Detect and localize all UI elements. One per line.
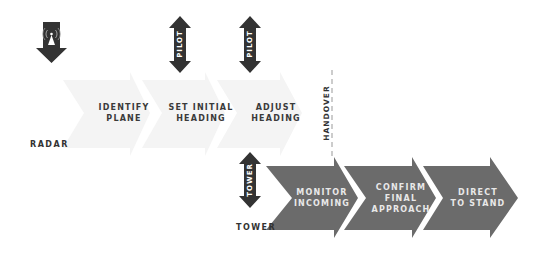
step-line: MONITOR <box>294 187 350 198</box>
step-line: HEADING <box>251 113 301 124</box>
tower-step-label: MONITOR INCOMING <box>294 187 350 209</box>
step-line: INCOMING <box>294 198 350 209</box>
pilot-label-2: PILOT <box>246 30 254 58</box>
tower-step-label: CONFIRM FINAL APPROACH <box>371 182 430 215</box>
step-line: PLANE <box>98 113 149 124</box>
tower-lane-label: TOWER <box>236 223 276 232</box>
tower-step-label: DIRECT TO STAND <box>451 187 506 209</box>
tower-actor-label: TOWER <box>246 163 254 197</box>
step-line: HEADING <box>168 113 233 124</box>
step-line: IDENTIFY <box>98 102 149 113</box>
pilot-label-1: PILOT <box>176 30 184 58</box>
step-line: FINAL <box>371 193 430 204</box>
radar-step-label: SET INITIAL HEADING <box>168 102 233 124</box>
handover-label: HANDOVER <box>322 85 331 140</box>
radar-lane-label: RADAR <box>30 140 69 149</box>
step-line: SET INITIAL <box>168 102 233 113</box>
step-line: CONFIRM <box>371 182 430 193</box>
process-diagram <box>0 0 543 256</box>
radar-step-label: IDENTIFY PLANE <box>98 102 149 124</box>
step-line: DIRECT <box>451 187 506 198</box>
step-line: TO STAND <box>451 198 506 209</box>
step-line: APPROACH <box>371 204 430 215</box>
step-line: ADJUST <box>251 102 301 113</box>
radar-step-label: ADJUST HEADING <box>251 102 301 124</box>
radar-icon <box>36 22 67 63</box>
